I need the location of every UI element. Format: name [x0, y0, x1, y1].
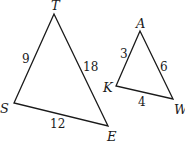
- vertex-label-s: S: [0, 101, 9, 116]
- similar-triangles-diagram: T S E 9 18 12 A K W 3 6 4: [0, 0, 185, 143]
- vertex-label-e: E: [106, 129, 117, 143]
- diagram-svg: T S E 9 18 12 A K W 3 6 4: [0, 0, 185, 143]
- vertex-label-t: T: [51, 0, 61, 13]
- vertex-label-a: A: [135, 16, 145, 31]
- side-length-ts: 9: [22, 52, 30, 66]
- side-length-se: 12: [50, 117, 65, 131]
- side-length-kw: 4: [138, 95, 146, 109]
- side-length-aw: 6: [160, 60, 168, 74]
- vertex-label-k: K: [102, 80, 114, 95]
- side-length-te: 18: [83, 60, 98, 74]
- side-length-ak: 3: [120, 47, 128, 61]
- vertex-label-w: W: [174, 102, 185, 117]
